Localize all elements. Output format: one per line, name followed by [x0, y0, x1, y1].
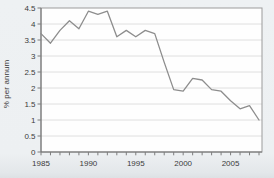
x-tick-label: 1995 — [127, 159, 145, 168]
x-tick-label: 2005 — [222, 159, 240, 168]
y-tick-label: 1.5 — [24, 100, 36, 109]
y-tick-label: 3 — [31, 52, 36, 61]
y-tick-label: 3.5 — [24, 36, 36, 45]
y-axis-title: % per annum — [2, 59, 11, 108]
y-tick-label: 1 — [31, 116, 36, 125]
line-chart: 00.511.522.533.544.519851990199520002005… — [0, 0, 274, 178]
y-tick-label: 2.5 — [24, 68, 36, 77]
y-tick-label: 4.5 — [24, 4, 36, 13]
plot-area — [41, 8, 262, 152]
figure: 00.511.522.533.544.519851990199520002005… — [0, 0, 274, 178]
x-tick-label: 1985 — [32, 159, 50, 168]
x-tick-label: 2000 — [174, 159, 192, 168]
y-tick-label: 2 — [31, 84, 36, 93]
y-tick-label: 0 — [31, 148, 36, 157]
y-tick-label: 0.5 — [24, 132, 36, 141]
y-tick-label: 4 — [31, 20, 36, 29]
x-tick-label: 1990 — [79, 159, 97, 168]
